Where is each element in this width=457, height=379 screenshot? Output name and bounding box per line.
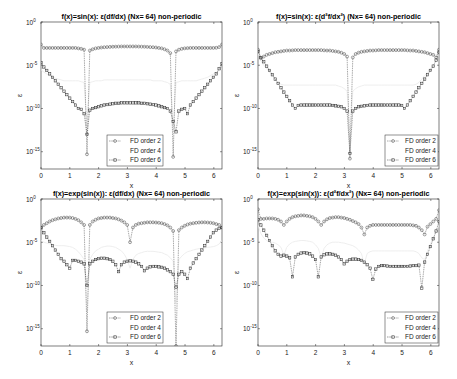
x-tick-label: 0: [39, 172, 43, 179]
x-tick-label: 4: [154, 349, 158, 356]
x-tick-label: 5: [400, 349, 404, 356]
legend-entry: FD order 6: [405, 333, 436, 340]
y-tick-label: 100: [243, 18, 253, 26]
legend-entry: FD order 2: [405, 137, 436, 144]
legend-entry: FD order 4: [130, 147, 161, 154]
y-tick-label: 10-15: [26, 147, 40, 155]
x-tick-label: 3: [343, 172, 347, 179]
x-tick-label: 6: [429, 172, 433, 179]
y-axis-label: ε: [16, 271, 23, 274]
y-tick-label: 10-15: [243, 147, 257, 155]
subplot-4: 012345610010-510-1010-15f(x)=exp(sin(x))…: [233, 189, 440, 366]
legend-entry: FD order 4: [130, 324, 161, 331]
x-axis-label: x: [130, 359, 134, 366]
x-tick-label: 4: [371, 349, 375, 356]
y-tick-label: 10-5: [26, 238, 38, 246]
y-tick-label: 100: [243, 195, 253, 203]
x-tick-label: 2: [314, 172, 318, 179]
legend-entry: FD order 6: [130, 156, 161, 163]
x-tick-label: 4: [371, 172, 375, 179]
x-tick-label: 1: [68, 349, 72, 356]
y-tick-label: 10-5: [243, 61, 255, 69]
y-tick-label: 10-15: [243, 324, 257, 332]
legend-entry: FD order 2: [130, 314, 161, 321]
x-tick-label: 0: [39, 349, 43, 356]
x-tick-label: 4: [154, 172, 158, 179]
x-tick-label: 0: [256, 349, 260, 356]
y-tick-label: 10-5: [243, 238, 255, 246]
x-tick-label: 5: [183, 349, 187, 356]
x-tick-label: 2: [314, 349, 318, 356]
x-tick-label: 1: [285, 172, 289, 179]
subplot-2: 012345610010-510-1010-15f(x)=sin(x): ε(d…: [233, 12, 440, 189]
x-tick-label: 3: [126, 172, 130, 179]
x-axis-label: x: [347, 182, 351, 189]
y-tick-label: 10-5: [26, 61, 38, 69]
chart-title: f(x)=exp(sin(x)): ε(d²f/dx²) (Nx= 64) no…: [268, 189, 430, 198]
y-tick-label: 10-10: [26, 104, 40, 112]
y-axis-label: ε: [233, 271, 240, 274]
chart-title: f(x)=exp(sin(x)): ε(df/dx) (Nx= 64) non-…: [53, 189, 210, 198]
y-tick-label: 10-10: [243, 281, 257, 289]
chart-title: f(x)=sin(x): ε(d²f/dx²) (Nx= 64) non-per…: [276, 12, 421, 21]
legend-entry: FD order 2: [130, 137, 161, 144]
y-tick-label: 10-15: [26, 324, 40, 332]
x-tick-label: 2: [97, 172, 101, 179]
subplot-3: 012345610010-510-1010-15f(x)=exp(sin(x))…: [16, 189, 223, 366]
legend-entry: FD order 6: [405, 156, 436, 163]
x-tick-label: 3: [343, 349, 347, 356]
x-tick-label: 2: [97, 349, 101, 356]
legend: FD order 2FD order 4FD order 6: [385, 135, 438, 166]
y-tick-label: 10-10: [26, 281, 40, 289]
x-tick-label: 5: [400, 172, 404, 179]
y-tick-label: 10-10: [243, 104, 257, 112]
x-tick-label: 6: [212, 349, 216, 356]
x-tick-label: 1: [285, 349, 289, 356]
y-axis-label: ε: [233, 94, 240, 97]
x-tick-label: 1: [68, 172, 72, 179]
x-tick-label: 6: [429, 349, 433, 356]
subplot-1: 012345610010-510-1010-15f(x)=sin(x): ε(d…: [16, 12, 223, 189]
x-axis-label: x: [130, 182, 134, 189]
legend-entry: FD order 6: [130, 333, 161, 340]
legend: FD order 2FD order 4FD order 6: [107, 312, 163, 343]
figure: 012345610010-510-1010-15f(x)=sin(x): ε(d…: [0, 0, 457, 379]
legend: FD order 2FD order 4FD order 6: [385, 312, 438, 343]
x-tick-label: 6: [212, 172, 216, 179]
legend: FD order 2FD order 4FD order 6: [107, 135, 163, 166]
y-tick-label: 100: [26, 195, 36, 203]
x-tick-label: 3: [126, 349, 130, 356]
legend-entry: FD order 4: [405, 147, 436, 154]
x-tick-label: 5: [183, 172, 187, 179]
y-tick-label: 100: [26, 18, 36, 26]
x-axis-label: x: [347, 359, 351, 366]
y-axis-label: ε: [16, 94, 23, 97]
legend-entry: FD order 2: [405, 314, 436, 321]
chart-title: f(x)=sin(x): ε(df/dx) (Nx= 64) non-perio…: [62, 12, 202, 21]
legend-entry: FD order 4: [405, 324, 436, 331]
x-tick-label: 0: [256, 172, 260, 179]
